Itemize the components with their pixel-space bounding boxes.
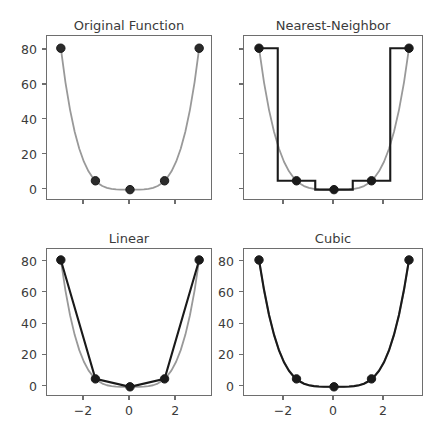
y-tick-label: 80: [201, 253, 234, 268]
x-tick-label: −2: [274, 403, 292, 418]
y-tick-label: 40: [201, 316, 234, 331]
reference-curve: [259, 260, 409, 387]
x-tick-mark: [282, 396, 283, 400]
y-tick-mark: [239, 385, 243, 386]
y-tick-label: 0: [201, 378, 234, 393]
figure-canvas: Original Function020406080Nearest-Neighb…: [0, 0, 446, 444]
x-tick-mark: [382, 396, 383, 400]
y-tick-mark: [239, 323, 243, 324]
data-point-marker: [255, 256, 263, 264]
subplot-cubic: Cubic020406080−202: [0, 0, 446, 444]
data-point-marker: [330, 383, 338, 391]
y-tick-label: 20: [201, 347, 234, 362]
data-point-marker: [405, 256, 413, 264]
data-point-marker: [292, 375, 300, 383]
subplot-title-cubic: Cubic: [243, 231, 423, 246]
y-tick-label: 60: [201, 284, 234, 299]
y-tick-mark: [239, 354, 243, 355]
plot-curves: [244, 249, 424, 397]
x-tick-label: 0: [329, 403, 337, 418]
x-tick-label: 2: [379, 403, 387, 418]
axes-frame-cubic: [243, 248, 423, 396]
y-tick-mark: [239, 260, 243, 261]
x-tick-mark: [332, 396, 333, 400]
interp-curve-cubic: [259, 260, 409, 387]
y-tick-mark: [239, 291, 243, 292]
data-point-marker: [367, 375, 375, 383]
